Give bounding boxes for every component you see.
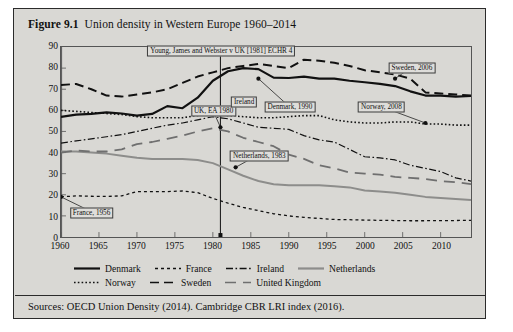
legend-item: Norway: [74, 277, 136, 288]
chart-annotation-label: Sweden, 2006: [389, 63, 436, 74]
legend-label: Ireland: [257, 263, 284, 274]
y-tick-label: 50: [36, 126, 58, 136]
legend-label: United Kingdom: [256, 277, 321, 288]
legend-swatch-icon: [155, 264, 181, 273]
x-tick-label: 1990: [279, 241, 298, 251]
event-marker-point: [218, 233, 222, 237]
legend-item: United Kingdom: [225, 277, 321, 288]
figure-title-text: Union density in Western Europe 1960–201…: [85, 18, 297, 30]
figure-title: Figure 9.1 Union density in Western Euro…: [28, 18, 296, 30]
chart-plot-area: Young, James and Webster v UK [1981] ECH…: [60, 46, 472, 238]
x-tick-label: 1985: [241, 241, 260, 251]
annotation-point: [423, 121, 427, 125]
chart-annotation-label: Ireland: [231, 97, 257, 108]
sources-note: Sources: OECD Union Density (2014). Camb…: [28, 301, 344, 312]
legend-swatch-icon: [74, 264, 100, 273]
line-chart-svg: [61, 47, 471, 237]
legend-label: Denmark: [105, 263, 141, 274]
chart-annotation-label: Denmark, 1990: [265, 101, 316, 112]
y-tick-label: 20: [36, 190, 58, 200]
annotation-point: [393, 77, 397, 81]
x-tick-label: 1980: [203, 241, 222, 251]
y-tick-label: 90: [36, 41, 58, 51]
legend-label: France: [186, 263, 212, 274]
chart-annotation-label: Netherlands, 1983: [230, 150, 289, 161]
legend-swatch-icon: [150, 278, 176, 287]
y-tick-label: 10: [36, 212, 58, 222]
y-tick-label: 80: [36, 62, 58, 72]
chart-annotation-label: Young, James and Webster v UK [1981] ECH…: [147, 46, 295, 57]
y-tick-label: 40: [36, 148, 58, 158]
legend-row: DenmarkFranceIrelandNetherlands: [74, 261, 474, 275]
x-axis-labels: 1960196519701975198019851990199520002005…: [60, 239, 472, 255]
legend-label: Sweden: [181, 277, 211, 288]
annotation-point: [256, 77, 260, 81]
chart-annotation-label: Norway, 2008: [358, 101, 405, 112]
legend-swatch-icon: [74, 278, 100, 287]
legend-item: Ireland: [226, 263, 284, 274]
legend-swatch-icon: [226, 264, 252, 273]
legend-label: Netherlands: [329, 263, 375, 274]
annotation-point: [218, 125, 222, 129]
x-tick-label: 2000: [356, 241, 375, 251]
chart-annotation-label: UK, EA 1980: [191, 106, 236, 117]
x-tick-label: 2010: [432, 241, 451, 251]
figure-container: Figure 9.1 Union density in Western Euro…: [13, 8, 486, 319]
y-tick-label: 60: [36, 105, 58, 115]
legend-item: Sweden: [150, 277, 211, 288]
x-tick-label: 2005: [394, 241, 413, 251]
figure-number: Figure 9.1: [28, 18, 79, 30]
annotation-point: [234, 165, 238, 169]
legend-item: Netherlands: [298, 263, 375, 274]
legend-item: France: [155, 263, 212, 274]
legend-swatch-icon: [298, 264, 324, 273]
sources-divider: [15, 295, 486, 296]
y-tick-label: 70: [36, 84, 58, 94]
annotation-point: [61, 195, 63, 199]
legend-swatch-icon: [225, 278, 251, 287]
legend-label: Norway: [105, 277, 136, 288]
x-tick-label: 1975: [165, 241, 184, 251]
legend-item: Denmark: [74, 263, 141, 274]
x-tick-label: 1960: [51, 241, 70, 251]
x-tick-label: 1995: [318, 241, 337, 251]
y-axis-labels: 0102030405060708090: [32, 46, 58, 238]
x-tick-label: 1970: [127, 241, 146, 251]
chart-legend: DenmarkFranceIrelandNetherlandsNorwaySwe…: [74, 261, 474, 291]
legend-row: NorwaySwedenUnited Kingdom: [74, 275, 474, 289]
y-tick-label: 30: [36, 169, 58, 179]
chart-annotation-label: France, 1956: [70, 208, 114, 219]
x-tick-label: 1965: [89, 241, 108, 251]
